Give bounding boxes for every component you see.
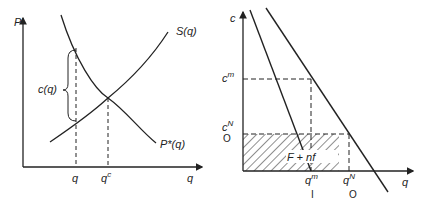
tick-qc: qc	[101, 170, 111, 184]
supply-label: S(q)	[176, 25, 197, 37]
tick-qn-sub: O	[349, 189, 357, 200]
diagram-canvas: P q S(q) P*(q) c(q) q qc F + nf c q cm c…	[0, 0, 422, 204]
tick-q: q	[72, 172, 79, 184]
left-chart: P q S(q) P*(q) c(q) q qc	[14, 15, 202, 184]
tick-cm: cm	[222, 70, 235, 84]
right-chart: F + nf c q cm cN O qm I qN O	[222, 8, 413, 200]
gap-label: c(q)	[38, 83, 57, 95]
tick-cn: cN	[222, 119, 234, 133]
shaded-area-label: F + nf	[287, 151, 316, 163]
tick-cn-sub: O	[223, 133, 231, 144]
brace	[63, 50, 76, 121]
tick-qn: qN	[343, 172, 355, 186]
tick-qm: qm	[305, 172, 318, 186]
left-x-label: q	[187, 172, 194, 184]
tick-qm-sub: I	[311, 189, 314, 200]
right-y-label: c	[230, 12, 236, 24]
right-x-label: q	[402, 176, 409, 188]
left-y-label: P	[14, 16, 22, 28]
demand-label: P*(q)	[160, 138, 185, 150]
